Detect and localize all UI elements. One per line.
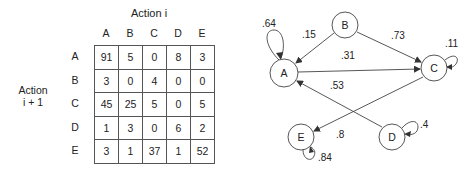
label-e-e: .84: [318, 152, 332, 163]
label-b-c: .73: [391, 30, 405, 41]
self-loop-a: [267, 30, 283, 60]
transition-graph: A B C D E .64 .15 .73 .31 .11 .53 .8 .4 …: [0, 0, 471, 170]
svg-text:C: C: [430, 62, 438, 74]
label-a-a: .64: [262, 18, 276, 29]
node-e: E: [288, 124, 314, 150]
label-c-c: .11: [445, 38, 459, 49]
label-c-e: .8: [336, 129, 345, 140]
node-a: A: [270, 59, 298, 87]
edge-a-to-c: [298, 69, 420, 72]
node-b: B: [332, 12, 358, 38]
label-a-c: .31: [341, 50, 355, 61]
svg-text:D: D: [388, 131, 396, 143]
label-b-a: .15: [302, 29, 316, 40]
label-d-d: .4: [420, 119, 429, 130]
svg-text:B: B: [341, 19, 348, 31]
node-c: C: [421, 55, 447, 81]
svg-text:E: E: [297, 131, 304, 143]
node-d: D: [379, 124, 405, 150]
svg-text:A: A: [280, 67, 287, 79]
edge-b-to-c: [357, 32, 421, 62]
label-d-a: .53: [330, 80, 344, 91]
